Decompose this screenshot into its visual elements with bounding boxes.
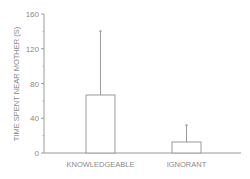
y-axis-title: TIME SPENT NEAR MOTHER (S) bbox=[12, 26, 21, 141]
bar-ignorant bbox=[172, 142, 201, 153]
category-label-knowledgeable: KNOWLEDGEABLE bbox=[67, 160, 135, 169]
bar-chart: 160 120 80 40 0 TIME SPENT NEAR MOTHER (… bbox=[0, 0, 250, 179]
y-tick-label-160: 160 bbox=[26, 10, 40, 19]
y-tick-label-40: 40 bbox=[30, 114, 39, 123]
bar-knowledgeable bbox=[86, 95, 115, 153]
y-tick-label-80: 80 bbox=[30, 80, 39, 89]
y-tick-label-120: 120 bbox=[26, 45, 40, 54]
category-label-ignorant: IGNORANT bbox=[167, 160, 207, 169]
y-tick-label-0: 0 bbox=[35, 149, 40, 158]
